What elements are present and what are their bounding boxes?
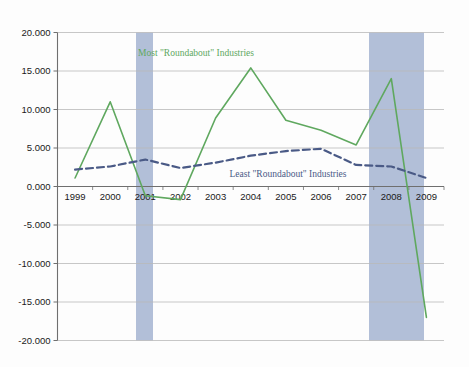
y-tick-label: 10.000 (21, 104, 50, 115)
y-tick-label: 15.000 (21, 65, 50, 76)
series-annotations-group: Most "Roundabout" IndustriesLeast "Round… (138, 48, 347, 179)
x-tick-label: 1999 (64, 191, 85, 202)
y-tick-label: -10.000 (18, 258, 50, 269)
x-tick-label: 2005 (275, 191, 296, 202)
most-roundabout-label: Most "Roundabout" Industries (138, 48, 254, 58)
x-axis-tick-labels: 1999200020012002200320042005200620072008… (64, 191, 437, 202)
y-tick-label: -5.000 (24, 219, 51, 230)
y-tick-label: 20.000 (21, 27, 50, 38)
y-tick-label: 0.000 (27, 181, 51, 192)
x-tick-label: 2008 (381, 191, 402, 202)
chart-container: 20.00015.00010.0005.0000.000-5.000-10.00… (0, 0, 469, 367)
y-tick-label: 5.000 (27, 142, 51, 153)
x-tick-label: 2004 (240, 191, 261, 202)
line-chart: 20.00015.00010.0005.0000.000-5.000-10.00… (0, 0, 469, 367)
y-tick-label: -20.000 (18, 335, 50, 346)
x-tick-label: 2003 (205, 191, 226, 202)
x-tick-label: 2000 (100, 191, 121, 202)
least-roundabout-label: Least "Roundabout" Industries (230, 169, 347, 179)
y-tick-label: -15.000 (18, 296, 50, 307)
x-tick-label: 2007 (346, 191, 367, 202)
x-tick-label: 2009 (416, 191, 437, 202)
y-axis-tick-labels: 20.00015.00010.0005.0000.000-5.000-10.00… (18, 27, 50, 346)
x-tick-label: 2006 (310, 191, 331, 202)
